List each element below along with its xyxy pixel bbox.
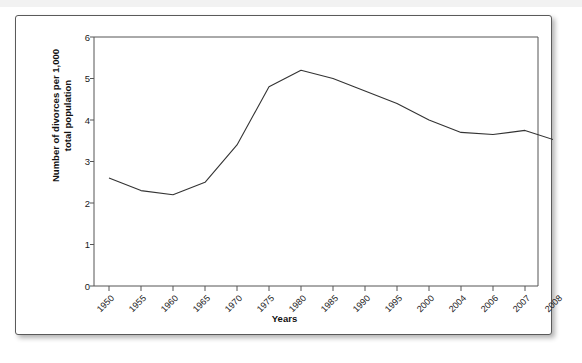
y-axis-ticks: [90, 37, 94, 286]
chart-area: Number of divorces per 1,000 total popul…: [16, 16, 553, 336]
data-series-divorce-rate: [109, 70, 553, 195]
chart-card: Number of divorces per 1,000 total popul…: [15, 15, 552, 335]
plot-svg: [16, 16, 553, 336]
screenshot-root: Number of divorces per 1,000 total popul…: [0, 0, 582, 363]
x-axis-ticks: [109, 286, 525, 291]
scan-top-band: [0, 0, 582, 7]
